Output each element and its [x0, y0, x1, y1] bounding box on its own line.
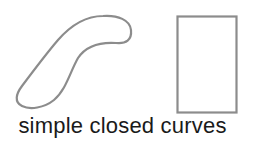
figure-caption: simple closed curves	[0, 113, 245, 139]
simple-closed-curves-figure: simple closed curves	[0, 0, 253, 157]
blob-curve-shape	[17, 16, 131, 108]
rectangle-shape	[178, 17, 237, 113]
